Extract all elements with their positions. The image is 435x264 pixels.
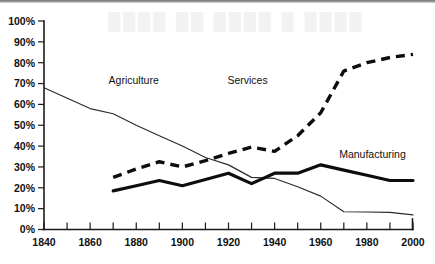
x-tick-label: 1900 bbox=[171, 236, 195, 248]
series-line-manufacturing bbox=[113, 165, 413, 191]
y-tick-label: 80% bbox=[14, 57, 36, 69]
y-tick-label: 50% bbox=[14, 119, 36, 131]
x-tick-label: 1980 bbox=[355, 236, 379, 248]
y-tick-label: 0% bbox=[20, 223, 36, 235]
x-tick-label: 1860 bbox=[78, 236, 102, 248]
y-axis-ticks bbox=[38, 21, 44, 230]
series-label-manufacturing: Manufacturing bbox=[339, 148, 406, 160]
series-label-services: Services bbox=[227, 74, 267, 86]
x-tick-label: 1940 bbox=[263, 236, 287, 248]
y-tick-label: 60% bbox=[14, 98, 36, 110]
chart-container: ████ ██ ████ █ ████ 0%10%20%30%40%50%60%… bbox=[0, 0, 435, 264]
x-axis: 184018601880190019201940196019802000 bbox=[32, 219, 425, 248]
x-tick-label: 1880 bbox=[125, 236, 149, 248]
y-tick-label: 10% bbox=[14, 202, 36, 214]
x-axis-ticks bbox=[44, 223, 413, 230]
x-tick-label: 1920 bbox=[217, 236, 241, 248]
series-label-agriculture: Agriculture bbox=[109, 74, 159, 86]
x-axis-tick-labels: 184018601880190019201940196019802000 bbox=[32, 236, 425, 248]
y-tick-label: 40% bbox=[14, 140, 36, 152]
line-chart-plot: 0%10%20%30%40%50%60%70%80%90%100% 184018… bbox=[0, 0, 435, 264]
y-tick-label: 30% bbox=[14, 161, 36, 173]
y-tick-label: 20% bbox=[14, 182, 36, 194]
x-tick-label: 2000 bbox=[401, 236, 425, 248]
series-inline-labels: AgricultureManufacturingServices bbox=[109, 74, 406, 160]
y-tick-label: 90% bbox=[14, 36, 36, 48]
x-tick-label: 1960 bbox=[309, 236, 333, 248]
y-tick-label: 70% bbox=[14, 77, 36, 89]
y-tick-label: 100% bbox=[8, 15, 36, 27]
y-axis: 0%10%20%30%40%50%60%70%80%90%100% bbox=[8, 15, 44, 236]
y-axis-tick-labels: 0%10%20%30%40%50%60%70%80%90%100% bbox=[8, 15, 36, 236]
x-tick-label: 1840 bbox=[32, 236, 56, 248]
